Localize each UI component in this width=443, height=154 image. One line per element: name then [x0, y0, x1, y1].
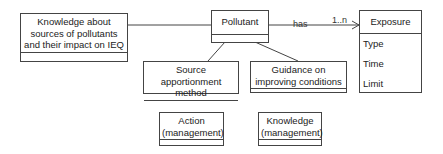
class-name: Knowledge about sources of pollutants an…: [21, 14, 127, 53]
class-attributes: Type Time Limit: [360, 34, 421, 94]
class-source-apportionment[interactable]: Source apportionment method: [143, 61, 239, 94]
attribute-time: Time: [360, 54, 421, 74]
name-line: Source apportionment: [146, 64, 236, 87]
name-line: Action: [162, 115, 221, 127]
attribute-limit: Limit: [360, 74, 421, 94]
association-label-has: has: [293, 19, 308, 29]
attribute-type: Type: [360, 34, 421, 54]
class-action-management[interactable]: Action (management): [159, 112, 224, 146]
class-attributes: [160, 140, 223, 145]
class-name: Action (management): [160, 113, 223, 140]
name-line: (management): [261, 127, 319, 139]
class-exposure[interactable]: Exposure Type Time Limit: [359, 10, 422, 93]
class-name: Knowledge (management): [259, 113, 321, 140]
name-line: (management): [162, 127, 221, 139]
class-knowledge-sources[interactable]: Knowledge about sources of pollutants an…: [20, 13, 128, 62]
class-guidance[interactable]: Guidance on improving conditions: [250, 61, 347, 93]
name-line: Knowledge about: [23, 16, 125, 28]
name-line: sources of pollutants: [23, 28, 125, 40]
class-name: Source apportionment method: [144, 62, 238, 101]
class-name: Exposure: [360, 11, 421, 34]
name-line: and their impact on IEQ: [23, 39, 125, 51]
class-attributes: [21, 53, 127, 62]
class-attributes: [259, 140, 321, 145]
class-attributes: [251, 89, 346, 92]
name-line: Knowledge: [261, 115, 319, 127]
class-name: Guidance on improving conditions: [251, 62, 346, 89]
name-line: improving conditions: [253, 76, 344, 88]
class-name: Pollutant: [212, 11, 268, 35]
class-pollutant[interactable]: Pollutant: [211, 10, 269, 43]
name-line: method: [146, 87, 236, 99]
class-knowledge-management[interactable]: Knowledge (management): [258, 112, 322, 146]
class-attributes: [212, 35, 268, 43]
name-line: Guidance on: [253, 64, 344, 76]
multiplicity-label: 1..n: [332, 15, 347, 25]
